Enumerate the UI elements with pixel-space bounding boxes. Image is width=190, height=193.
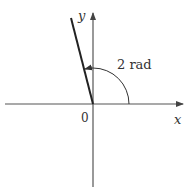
x-axis-label: x	[174, 112, 182, 127]
y-axis-label: y	[77, 8, 86, 23]
terminal-side	[71, 18, 93, 104]
origin-label: 0	[81, 111, 89, 125]
angle-label: 2 rad	[117, 57, 152, 72]
angle-diagram: y x 0 2 rad	[0, 0, 190, 193]
